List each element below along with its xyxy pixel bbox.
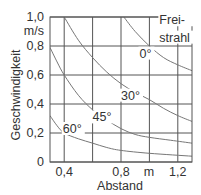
curve-annotation: 0°: [139, 47, 151, 61]
x-axis-label: Abstand: [97, 179, 143, 193]
curve-annotation: Frei-: [159, 13, 185, 27]
y-unit-label: m/s: [24, 24, 44, 38]
x-tick-label: 1,2: [169, 165, 186, 179]
x-axis-ticks: 0,40,81,2: [56, 165, 187, 179]
curve-annotation: 45°: [93, 110, 112, 124]
curve-annotation: 30°: [121, 89, 140, 103]
y-tick-label: 0,6: [27, 68, 44, 82]
curve-annotation: strahl: [159, 31, 190, 45]
y-tick-label: 0: [37, 155, 44, 169]
y-tick-label: 0,4: [27, 97, 44, 111]
x-unit-tick-label: m: [144, 165, 154, 179]
curve-annotation: 60°: [63, 122, 82, 136]
velocity-distance-chart: 00,20,40,60,81,0 0,40,81,2 Frei-strahl0°…: [0, 0, 201, 195]
x-tick-label: 0,8: [112, 165, 129, 179]
x-tick-label: 0,4: [56, 165, 73, 179]
y-tick-label: 1,0: [27, 10, 44, 24]
y-tick-label: 0,2: [27, 126, 44, 140]
y-tick-label: 0,8: [27, 39, 44, 53]
y-axis-label: Geschwindigkeit: [9, 49, 23, 141]
